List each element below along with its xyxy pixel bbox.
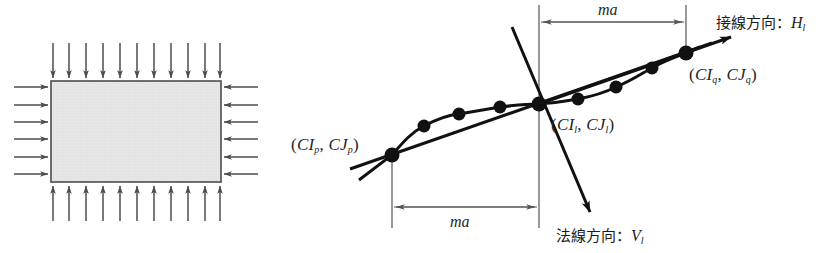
- label-point-l: (CIl, CJl): [551, 116, 614, 133]
- label-point-q-sub2: q: [746, 74, 751, 85]
- node-dot-q: [679, 46, 694, 61]
- label-point-l-close: ): [608, 115, 614, 134]
- node-dot: [646, 62, 659, 75]
- label-normal-direction-symbol: V: [631, 227, 641, 244]
- label-tangent-direction-text: 接線方向：: [716, 14, 791, 32]
- top-pressure-arrows: [53, 43, 220, 78]
- label-point-q-cj: CJ: [726, 65, 745, 84]
- label-tangent-direction-symbol: H: [791, 14, 803, 31]
- node-dot-p: [385, 148, 400, 163]
- label-point-p-ci: CI: [297, 135, 314, 154]
- right-panel-tangent-normal-diagram: [350, 5, 731, 228]
- plate-rectangle: [51, 81, 221, 182]
- dimension-label-top: ma: [598, 2, 618, 18]
- label-point-p-cj: CJ: [328, 135, 347, 154]
- label-point-p: (CIp, CJp): [291, 136, 359, 153]
- label-point-p-sub1: p: [314, 144, 319, 155]
- label-point-l-sub1: l: [574, 124, 577, 135]
- label-normal-direction-sub: l: [641, 235, 644, 246]
- node-dot: [453, 108, 466, 121]
- label-point-q-ci: CI: [695, 65, 712, 84]
- label-point-q-sub1: q: [712, 74, 717, 85]
- label-point-l-comma: ,: [577, 115, 586, 134]
- label-tangent-direction-sub: l: [803, 22, 806, 33]
- label-point-l-ci: CI: [557, 115, 574, 134]
- node-dot: [418, 120, 431, 133]
- node-dot: [494, 101, 507, 114]
- figure-canvas: [0, 0, 829, 253]
- reference-verticals: [392, 5, 686, 228]
- bottom-pressure-arrows: [53, 186, 220, 221]
- node-dot: [572, 93, 585, 106]
- label-point-q: (CIq, CJq): [689, 66, 757, 83]
- left-panel-pressure-diagram: [14, 43, 258, 221]
- label-point-p-close: ): [353, 135, 359, 154]
- label-point-p-sub2: p: [348, 144, 353, 155]
- figure-root: (CIp, CJp) (CIl, CJl) (CIq, CJq) 接線方向：Hl…: [0, 0, 829, 253]
- label-point-q-close: ): [751, 65, 757, 84]
- label-normal-direction: 法線方向：Vl: [556, 228, 644, 244]
- label-tangent-direction: 接線方向：Hl: [716, 15, 805, 31]
- label-point-l-cj: CJ: [586, 115, 605, 134]
- node-dot-l: [532, 97, 547, 112]
- dimension-label-bottom: ma: [450, 214, 470, 230]
- left-pressure-arrows: [14, 87, 48, 174]
- label-normal-direction-text: 法線方向：: [556, 227, 631, 245]
- node-dot: [610, 81, 623, 94]
- right-pressure-arrows: [224, 87, 258, 174]
